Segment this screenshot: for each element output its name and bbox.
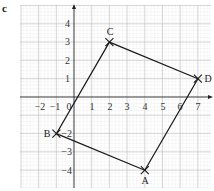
y-tick-4: 4 (65, 18, 70, 29)
point-d-label: D (204, 73, 211, 84)
minor-grid (20, 5, 211, 188)
x-tick-m2: −2 (35, 101, 46, 112)
x-tick-1: 1 (90, 101, 95, 112)
origin-label: 0 (67, 101, 72, 112)
x-tick-3: 3 (125, 101, 130, 112)
y-tick-1: 1 (65, 73, 70, 84)
y-tick-2: 2 (65, 55, 70, 66)
y-tick-3: 3 (65, 36, 70, 47)
y-tick-m3: −3 (61, 146, 72, 157)
point-c-label: C (107, 26, 114, 37)
point-a-label: A (141, 175, 149, 186)
x-tick-5: 5 (161, 101, 166, 112)
x-tick-7: 7 (196, 101, 201, 112)
coordinate-grid: −2 −1 0 1 2 3 4 5 6 7 4 3 2 1 −2 −3 −4 A… (0, 0, 214, 191)
x-tick-4: 4 (143, 101, 148, 112)
y-tick-m4: −4 (61, 165, 72, 176)
x-tick-2: 2 (108, 101, 113, 112)
x-tick-m1: −1 (50, 101, 61, 112)
point-b-label: B (44, 128, 51, 139)
